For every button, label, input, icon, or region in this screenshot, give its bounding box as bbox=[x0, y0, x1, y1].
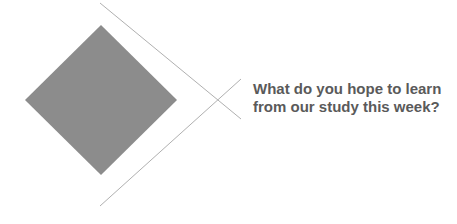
question-line-2: from our study this week? bbox=[253, 98, 441, 116]
question-text: What do you hope to learn from our study… bbox=[253, 80, 441, 116]
question-line-1: What do you hope to learn bbox=[253, 80, 441, 98]
slide: What do you hope to learn from our study… bbox=[0, 0, 457, 224]
